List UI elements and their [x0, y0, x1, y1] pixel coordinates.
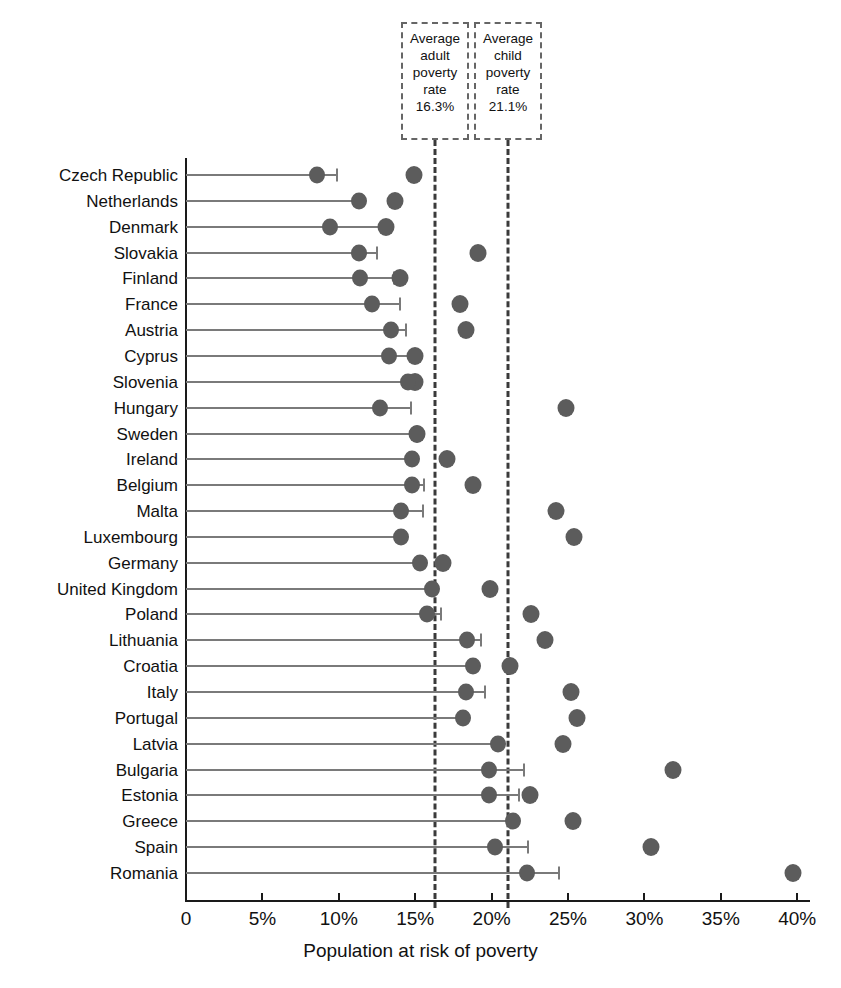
range-cap	[527, 841, 529, 854]
range-line	[186, 536, 401, 538]
y-axis-label-denmark: Denmark	[109, 218, 178, 235]
y-axis-line	[185, 158, 187, 900]
y-axis-label-spain: Spain	[135, 839, 178, 856]
annotation-adult-average: Averageadultpovertyrate16.3%	[401, 22, 469, 140]
x-axis-tick	[491, 893, 493, 900]
adult-poverty-marker	[352, 270, 368, 287]
x-axis-tick-label: 15%	[396, 908, 434, 930]
y-axis-label-slovakia: Slovakia	[114, 244, 178, 261]
annotation-line: 16.3%	[403, 98, 467, 115]
range-cap	[422, 505, 424, 518]
x-axis-tick	[567, 893, 569, 900]
adult-poverty-marker	[465, 658, 481, 675]
adult-poverty-marker	[309, 167, 325, 184]
reference-line-average-child-poverty-rate	[507, 140, 510, 908]
range-cap	[376, 246, 378, 259]
plot-area: 05%10%15%20%25%30%35%40%Czech RepublicNe…	[0, 0, 841, 988]
range-cap	[405, 324, 407, 337]
child-poverty-marker	[465, 476, 482, 494]
child-poverty-marker	[391, 269, 408, 287]
child-poverty-marker	[434, 554, 451, 572]
child-poverty-marker	[569, 709, 586, 727]
range-line	[186, 200, 359, 202]
child-poverty-marker	[566, 528, 583, 546]
y-axis-label-croatia: Croatia	[123, 658, 178, 675]
range-cap	[523, 763, 525, 776]
range-cap	[480, 634, 482, 647]
adult-poverty-marker	[400, 373, 416, 390]
adult-poverty-marker	[424, 580, 440, 597]
child-poverty-marker	[665, 761, 682, 779]
child-poverty-marker	[523, 605, 540, 623]
y-axis-label-austria: Austria	[125, 322, 178, 339]
adult-poverty-marker	[455, 709, 471, 726]
adult-poverty-marker	[372, 399, 388, 416]
y-axis-label-france: France	[125, 296, 178, 313]
range-line	[186, 252, 377, 254]
annotation-line: poverty	[403, 64, 467, 81]
adult-poverty-marker	[519, 864, 535, 881]
y-axis-label-sweden: Sweden	[117, 425, 178, 442]
range-line	[186, 433, 417, 435]
x-axis-tick	[338, 893, 340, 900]
adult-poverty-marker	[505, 813, 521, 830]
annotation-line: 21.1%	[476, 98, 540, 115]
child-poverty-marker	[387, 192, 404, 210]
y-axis-label-malta: Malta	[136, 503, 178, 520]
x-axis-tick-label: 5%	[249, 908, 276, 930]
annotation-line: Average	[476, 30, 540, 47]
x-axis-tick	[185, 893, 187, 900]
child-poverty-marker	[547, 502, 564, 520]
y-axis-label-czech-republic: Czech Republic	[59, 167, 178, 184]
x-axis-tick	[796, 893, 798, 900]
x-axis-tick-label: 35%	[702, 908, 740, 930]
adult-poverty-marker	[481, 761, 497, 778]
range-cap	[558, 866, 560, 879]
y-axis-label-italy: Italy	[147, 684, 178, 701]
y-axis-label-latvia: Latvia	[133, 735, 178, 752]
annotation-child-average: Averagechildpovertyrate21.1%	[474, 22, 542, 140]
range-line	[186, 743, 498, 745]
y-axis-label-hungary: Hungary	[114, 399, 178, 416]
range-line	[186, 691, 485, 693]
y-axis-label-greece: Greece	[122, 813, 178, 830]
range-line	[186, 665, 473, 667]
adult-poverty-marker	[383, 322, 399, 339]
adult-poverty-marker	[364, 296, 380, 313]
range-cap	[484, 686, 486, 699]
range-line	[186, 510, 423, 512]
adult-poverty-marker	[487, 839, 503, 856]
y-axis-label-ireland: Ireland	[126, 451, 178, 468]
range-line	[186, 381, 408, 383]
adult-poverty-marker	[404, 477, 420, 494]
range-cap	[518, 789, 520, 802]
child-poverty-marker	[451, 295, 468, 313]
range-line	[186, 588, 432, 590]
y-axis-label-finland: Finland	[122, 270, 178, 287]
y-axis-label-poland: Poland	[125, 606, 178, 623]
x-axis-line	[185, 900, 810, 902]
y-axis-label-united-kingdom: United Kingdom	[57, 580, 178, 597]
range-cap	[410, 401, 412, 414]
child-poverty-marker	[642, 838, 659, 856]
x-axis-tick	[261, 893, 263, 900]
range-line	[186, 639, 481, 641]
child-poverty-marker	[439, 450, 456, 468]
child-poverty-marker	[564, 812, 581, 830]
range-line	[186, 355, 414, 357]
annotation-line: child	[476, 47, 540, 64]
range-cap	[399, 298, 401, 311]
adult-poverty-marker	[409, 425, 425, 442]
y-axis-label-romania: Romania	[110, 864, 178, 881]
adult-poverty-marker	[490, 735, 506, 752]
child-poverty-marker	[407, 347, 424, 365]
adult-poverty-marker	[393, 528, 409, 545]
y-axis-label-belgium: Belgium	[117, 477, 178, 494]
range-line	[186, 329, 406, 331]
range-line	[186, 846, 528, 848]
child-poverty-marker	[469, 244, 486, 262]
range-line	[186, 717, 463, 719]
adult-poverty-marker	[458, 684, 474, 701]
adult-poverty-marker	[481, 787, 497, 804]
x-axis-tick-label: 40%	[778, 908, 816, 930]
